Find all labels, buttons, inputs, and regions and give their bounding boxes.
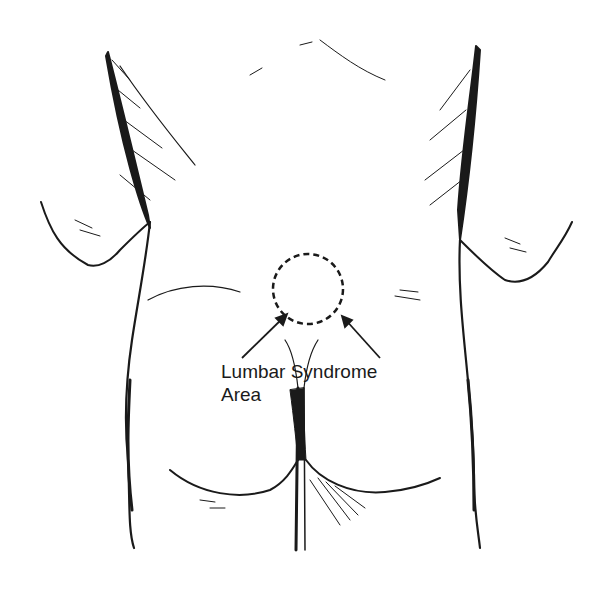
left-arrow <box>242 316 285 358</box>
lumbar-area-marker <box>273 254 343 324</box>
pointer-arrows <box>242 314 380 358</box>
label-line-2: Area <box>221 384 261 406</box>
left-arm-outline <box>41 202 150 266</box>
label-line-1: Lumbar Syndrome <box>221 361 377 383</box>
right-gluteal-fold <box>306 460 440 492</box>
body-drawing <box>0 0 597 590</box>
right-arm-outline <box>460 222 572 282</box>
right-arrow <box>344 318 380 358</box>
illustration: Lumbar Syndrome Area <box>0 0 597 590</box>
right-flank-shading <box>458 46 480 240</box>
left-gluteal-fold <box>170 460 298 495</box>
